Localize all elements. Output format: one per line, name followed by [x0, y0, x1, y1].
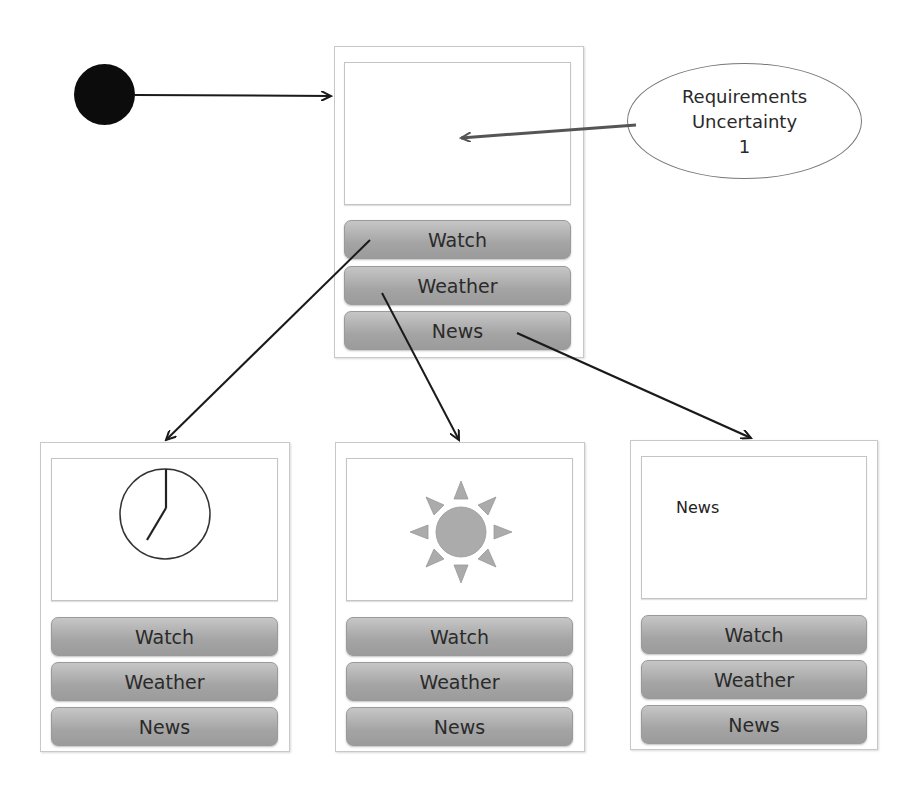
annotation-line-3: 1 — [739, 134, 750, 159]
weather-screen-mockup: Watch Weather News — [335, 442, 585, 752]
requirements-uncertainty-annotation: Requirements Uncertainty 1 — [627, 63, 862, 179]
start-to-main-arrow — [135, 95, 331, 96]
main-screen-mockup: Watch Weather News — [334, 46, 584, 358]
news-content-text: News — [676, 498, 719, 517]
watch-screen-content-area — [51, 458, 278, 601]
news-screen-news-button[interactable]: News — [641, 705, 867, 744]
watch-screen-mockup: Watch Weather News — [40, 442, 290, 752]
annotation-line-1: Requirements — [682, 84, 807, 109]
weather-screen-weather-button[interactable]: Weather — [346, 662, 573, 701]
main-weather-button[interactable]: Weather — [344, 266, 571, 305]
news-screen-content-area: News — [641, 456, 867, 599]
weather-screen-watch-button[interactable]: Watch — [346, 617, 573, 656]
news-screen-mockup: News Watch Weather News — [630, 440, 878, 750]
news-screen-weather-button[interactable]: Weather — [641, 660, 867, 699]
main-watch-button[interactable]: Watch — [344, 220, 571, 259]
weather-screen-content-area — [346, 458, 573, 601]
watch-screen-news-button[interactable]: News — [51, 707, 278, 746]
main-screen-content-area — [344, 62, 571, 205]
news-screen-watch-button[interactable]: Watch — [641, 615, 867, 654]
watch-screen-weather-button[interactable]: Weather — [51, 662, 278, 701]
annotation-line-2: Uncertainty — [692, 109, 797, 134]
sun-icon — [347, 459, 574, 602]
start-node-icon — [74, 64, 135, 125]
weather-screen-news-button[interactable]: News — [346, 707, 573, 746]
clock-icon — [52, 459, 279, 602]
main-news-button[interactable]: News — [344, 311, 571, 350]
watch-screen-watch-button[interactable]: Watch — [51, 617, 278, 656]
